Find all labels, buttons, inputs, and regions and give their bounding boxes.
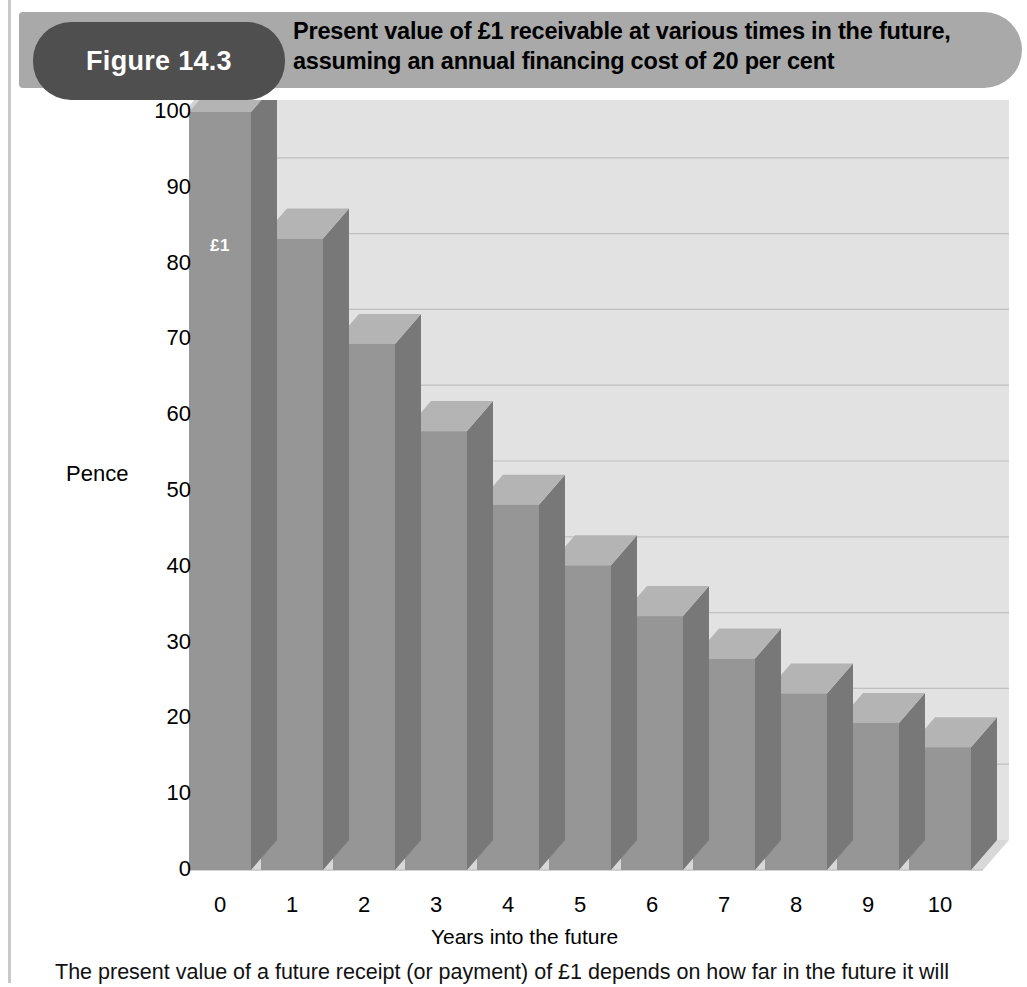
x-tick-label: 9 <box>846 892 890 918</box>
y-axis-tick-labels: 0102030405060708090100 <box>71 100 191 890</box>
figure-number-label: Figure 14.3 <box>86 46 232 77</box>
bar-side-face <box>611 535 637 870</box>
x-tick-label: 4 <box>486 892 530 918</box>
y-tick-label: 90 <box>131 174 191 200</box>
y-tick-label: 70 <box>131 325 191 351</box>
figure-caption: The present value of a future receipt (o… <box>55 957 1005 987</box>
figure-title-line-2: assuming an annual financing cost of 20 … <box>293 46 993 76</box>
bar-side-face <box>755 629 781 870</box>
y-tick-label: 20 <box>131 704 191 730</box>
bar-front-face <box>189 112 251 870</box>
x-tick-label: 7 <box>702 892 746 918</box>
x-tick-label: 0 <box>198 892 242 918</box>
y-axis-title: Pence <box>66 461 128 487</box>
figure-number-badge: Figure 14.3 <box>33 22 285 100</box>
bar-annotation-pound1: £1 <box>210 236 230 256</box>
y-tick-label: 10 <box>131 780 191 806</box>
bar-side-face <box>323 209 349 870</box>
x-tick-label: 10 <box>918 892 962 918</box>
bar-side-face <box>683 586 709 870</box>
x-tick-label: 6 <box>630 892 674 918</box>
figure-frame: Figure 14.3 Present value of £1 receivab… <box>8 0 1019 983</box>
bar-side-face <box>395 314 421 870</box>
bar-side-face <box>899 693 925 870</box>
figure-title-line-1: Present value of £1 receivable at variou… <box>293 18 951 44</box>
y-tick-label: 0 <box>131 856 191 882</box>
bar-side-face <box>539 475 565 870</box>
y-tick-label: 100 <box>131 98 191 124</box>
bar-side-face <box>827 663 853 870</box>
bar-side-face <box>251 100 277 870</box>
bar-side-face <box>467 401 493 870</box>
x-tick-label: 8 <box>774 892 818 918</box>
x-axis-tick-labels: 012345678910 <box>11 892 1027 926</box>
y-tick-label: 60 <box>131 401 191 427</box>
x-tick-label: 5 <box>558 892 602 918</box>
bar-column-0 <box>189 100 277 870</box>
x-tick-label: 1 <box>270 892 314 918</box>
x-axis-title: Years into the future <box>11 925 1027 949</box>
x-tick-label: 3 <box>414 892 458 918</box>
y-tick-label: 80 <box>131 250 191 276</box>
x-tick-label: 2 <box>342 892 386 918</box>
y-tick-label: 50 <box>131 477 191 503</box>
y-tick-label: 40 <box>131 553 191 579</box>
figure-title: Present value of £1 receivable at variou… <box>293 16 993 76</box>
y-tick-label: 30 <box>131 629 191 655</box>
